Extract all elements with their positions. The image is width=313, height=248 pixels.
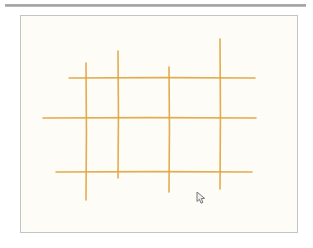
top-divider [5,4,306,7]
canvas-surface[interactable] [21,16,297,232]
app-root [0,0,313,248]
drawing-canvas[interactable] [20,15,298,233]
sketch-strokes [21,16,297,232]
